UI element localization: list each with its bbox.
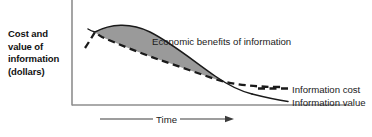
legend-label-information-cost: Information cost: [292, 84, 360, 95]
y-axis-label-line-1: Cost and: [8, 28, 70, 41]
legend-swatch-information-value: [252, 94, 288, 102]
y-axis-label: Cost and value of information (dollars): [8, 28, 70, 78]
x-axis-label: Time: [153, 114, 180, 125]
economic-benefits-shaded-region: [95, 25, 224, 81]
legend-label-information-value: Information value: [292, 97, 366, 108]
y-axis-label-line-2: value of: [8, 41, 70, 54]
y-axis-label-line-4: (dollars): [8, 66, 70, 79]
economic-benefits-annotation: Economic benefits of information: [152, 36, 291, 47]
time-arrow-head: [225, 116, 234, 123]
y-axis-label-line-3: information: [8, 53, 70, 66]
